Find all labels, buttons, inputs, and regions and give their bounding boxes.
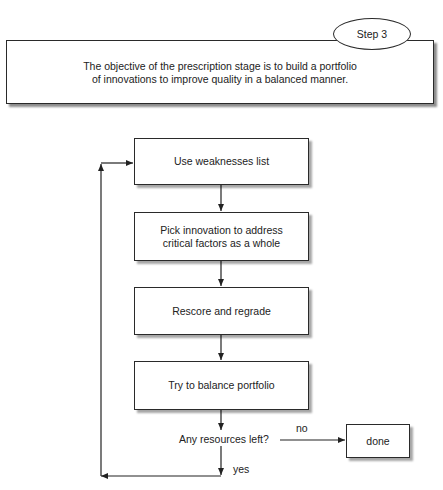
step-2-label-line-2: critical factors as a whole [160, 237, 283, 250]
step-box-use-weaknesses: Use weaknesses list [134, 138, 309, 185]
step-box-balance-portfolio: Try to balance portfolio [134, 361, 309, 410]
step-3-label: Rescore and regrade [172, 305, 271, 318]
decision-yes-label: yes [233, 463, 249, 475]
step-1-label: Use weaknesses list [174, 155, 269, 168]
step-box-pick-innovation: Pick innovation to address critical fact… [134, 212, 309, 261]
step-4-label: Try to balance portfolio [168, 379, 274, 392]
decision-no-label: no [296, 422, 308, 434]
step-2-label-line-1: Pick innovation to address [160, 224, 283, 237]
terminal-done-box: done [346, 424, 410, 458]
step-box-rescore: Rescore and regrade [134, 287, 309, 335]
terminal-label: done [366, 435, 389, 447]
decision-question: Any resources left? [179, 433, 269, 445]
